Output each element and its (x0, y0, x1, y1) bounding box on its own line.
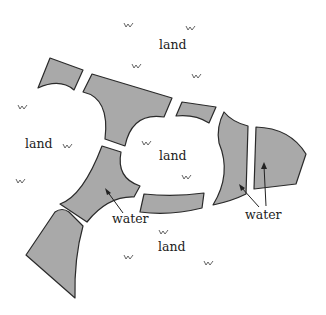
grass-icon (186, 26, 195, 30)
water-region-far-right (254, 127, 306, 189)
water-arrow-right-a (241, 187, 259, 207)
grass-icon (159, 230, 168, 234)
grass-icon (204, 261, 213, 265)
grass-icon (18, 105, 27, 109)
grass-icon (142, 141, 151, 145)
grass-icon (16, 179, 25, 183)
grass-icon (124, 23, 133, 27)
land-label-center: land (159, 148, 187, 163)
water-region-upper-channel (83, 74, 172, 146)
grass-icon (63, 144, 72, 148)
water-region-top-right-small (176, 102, 216, 123)
grass-icon (192, 74, 201, 78)
land-water-diagram: land land land land water water (0, 0, 326, 315)
water-region-top-left (38, 58, 83, 90)
water-region-right-tall (213, 112, 248, 205)
grass-icon (182, 175, 191, 179)
water-region-bottom-left (26, 210, 83, 299)
land-label-bottom: land (158, 239, 186, 254)
water-region-bottom-channel (140, 193, 204, 213)
land-label-top: land (159, 37, 187, 52)
grass-icon (132, 64, 141, 68)
grass-icon (124, 255, 133, 259)
water-label-right: water (245, 207, 282, 222)
water-label-left: water (112, 211, 149, 226)
land-label-left: land (25, 136, 53, 151)
